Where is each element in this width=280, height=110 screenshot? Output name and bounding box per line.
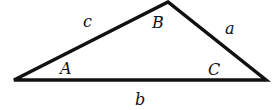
triangle-diagram: A B C c a b: [0, 0, 280, 110]
side-label-a: a: [225, 19, 235, 38]
angle-label-c: C: [208, 60, 220, 79]
side-label-b: b: [135, 90, 145, 109]
angle-label-a: A: [58, 59, 72, 78]
angle-label-b: B: [151, 13, 164, 32]
side-label-c: c: [83, 12, 92, 31]
triangle-shape: [14, 2, 266, 80]
